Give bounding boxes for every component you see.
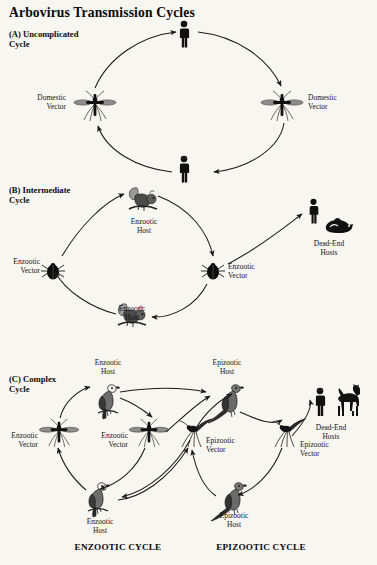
arrow-a-right-vector-to-human xyxy=(214,123,284,172)
human-figure-icon xyxy=(312,387,328,417)
label-enzootic-host-bottom-b: Enzootic Host xyxy=(103,305,161,322)
mosquito-icon xyxy=(260,90,304,122)
label-epizootic-host-bottom-c: Epizootic Host xyxy=(204,512,264,529)
arrow-a-human-to-left-vector xyxy=(98,126,172,172)
label-enzootic-host-top-b: Enzootic Host xyxy=(114,218,174,235)
bird-icon xyxy=(92,382,122,420)
label-enzootic-vector-left-c: Enzootic Vector xyxy=(0,432,38,449)
caption-epizootic-cycle: EPIZOOTIC CYCLE xyxy=(196,542,326,552)
label-enzootic-vector-center-b: Enzootic Vector xyxy=(228,263,278,280)
arbovirus-transmission-diagram: Arbovirus Transmission Cycles (A) Uncomp… xyxy=(0,0,377,565)
horse-icon xyxy=(332,384,366,418)
page-title: Arbovirus Transmission Cycles xyxy=(9,5,195,21)
bird-icon xyxy=(82,480,112,518)
label-epizootic-host-top-c: Epizootic Host xyxy=(196,359,258,376)
label-dead-end-hosts-c: Dead-End Hosts xyxy=(300,424,362,441)
section-a-heading: (A) Uncomplicated Cycle xyxy=(9,30,129,50)
mosquito-icon xyxy=(128,418,170,448)
label-domestic-vector-left: Domestic Vector xyxy=(10,94,66,111)
arrow-c-enz-host-top-to-vector-mid xyxy=(120,398,152,417)
arrow-c-enz-host-bottom-to-epi-vector xyxy=(118,448,188,500)
mosquito-icon xyxy=(38,418,80,448)
label-domestic-vector-right: Domestic Vector xyxy=(308,94,368,111)
caption-enzootic-cycle: ENZOOTIC CYCLE xyxy=(58,542,178,552)
label-epizootic-vector-right-c: Epizootic Vector xyxy=(300,441,348,458)
human-figure-icon xyxy=(306,198,321,224)
label-enzootic-host-top-c: Enzootic Host xyxy=(78,359,138,376)
tick-icon xyxy=(40,259,66,283)
label-enzootic-host-bottom-c: Enzootic Host xyxy=(72,518,128,535)
arrow-b-vector-to-dead-end xyxy=(228,214,302,264)
squirrel-icon xyxy=(126,184,160,214)
tick-icon xyxy=(200,259,226,283)
label-enzootic-vector-left-b: Enzootic Vector xyxy=(0,258,40,275)
label-enzootic-vector-mid-c: Enzootic Vector xyxy=(88,432,128,449)
label-dead-end-hosts-b: Dead-End Hosts xyxy=(298,240,360,257)
arrow-c-enz-host-to-epi-host xyxy=(120,388,206,392)
mosquito-icon xyxy=(73,90,117,122)
arrow-c-epi-vector-to-enz-host-bottom xyxy=(122,440,190,497)
human-figure-icon xyxy=(176,155,192,183)
human-figure-icon xyxy=(176,20,192,48)
section-b-heading: (B) Intermediate Cycle xyxy=(9,186,129,206)
arrow-a-human-to-right-vector xyxy=(198,32,281,86)
label-epizootic-vector-mid-c: Epizootic Vector xyxy=(206,437,254,454)
pig-icon xyxy=(322,215,356,235)
